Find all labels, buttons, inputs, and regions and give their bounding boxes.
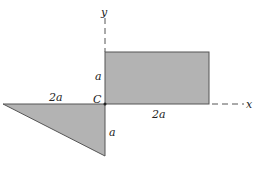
rectangle-height-label: a [95,70,102,83]
diagram-canvas: y x C a 2a 2a a [0,0,260,175]
rectangle-shape [105,52,209,104]
origin-point [104,103,107,106]
triangle-shape [3,104,105,156]
origin-label: C [93,93,102,106]
triangle-height-label: a [109,126,116,139]
y-axis-label: y [100,6,108,19]
x-axis-label: x [246,98,253,111]
rectangle-width-label: 2a [151,108,166,121]
triangle-base-label: 2a [48,91,63,104]
